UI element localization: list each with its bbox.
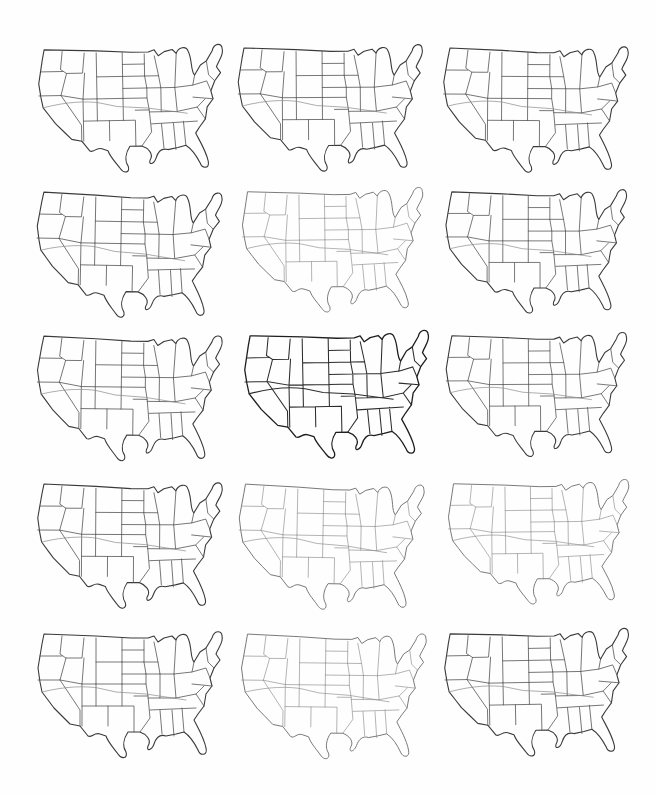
us-map-sketch xyxy=(441,42,634,181)
us-map-sketch xyxy=(444,186,632,321)
us-map-sketch-r5-c3 xyxy=(442,624,636,765)
us-map-sketch xyxy=(36,40,230,181)
us-map-sketch-r4-c2 xyxy=(235,478,429,619)
us-map-sketch-r3-c3 xyxy=(444,329,633,465)
map-grid xyxy=(36,40,636,760)
us-map-sketch xyxy=(235,478,429,619)
us-map-sketch xyxy=(446,476,636,614)
us-map-sketch-r2-c1 xyxy=(33,186,227,327)
us-map-sketch-r2-c2 xyxy=(240,184,430,322)
us-map-sketch xyxy=(236,41,429,180)
us-map-sketch xyxy=(35,478,228,617)
us-map-sketch-r5-c2 xyxy=(238,628,432,768)
us-map-sketch-r1-c1 xyxy=(36,40,230,181)
us-map-sketch xyxy=(238,628,432,768)
us-map-sketch-r2-c3 xyxy=(444,186,632,321)
us-map-sketch-r1-c3 xyxy=(441,42,634,181)
us-map-sketch-r4-c3 xyxy=(446,476,636,614)
us-map-sketch-r4-c1 xyxy=(35,478,228,617)
us-map-sketch-r3-c1 xyxy=(34,330,228,470)
us-map-sketch-r1-c2 xyxy=(236,41,429,180)
us-map-sketch xyxy=(444,329,633,465)
us-map-sketch xyxy=(240,184,430,322)
us-map-sketch-r5-c1 xyxy=(36,628,228,766)
us-map-sketch xyxy=(33,186,227,327)
us-map-sketch xyxy=(34,330,228,470)
us-map-sketch xyxy=(242,326,436,467)
us-map-sketch xyxy=(442,624,636,765)
us-map-sketch xyxy=(36,628,228,766)
drawing-sheet xyxy=(0,0,655,794)
us-map-sketch-r3-c2 xyxy=(242,326,436,467)
